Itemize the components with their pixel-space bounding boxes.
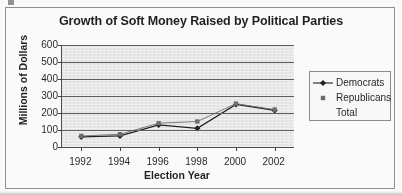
legend-item-democrats: Democrats — [310, 75, 390, 90]
x-axis-tick — [236, 147, 237, 151]
diamond-line-marker-icon — [310, 76, 336, 90]
y-axis-tick-label: 100 — [24, 125, 58, 135]
gridline — [62, 79, 294, 80]
x-axis-tick-label: 2002 — [254, 156, 294, 167]
data-point-republicans — [272, 107, 276, 111]
x-axis-tick — [275, 147, 276, 151]
y-axis-tick-label: 300 — [24, 91, 58, 101]
y-axis-tick-labels: 0100200300400500600 — [22, 45, 58, 147]
series-line-democrats — [81, 105, 274, 137]
y-axis-tick — [58, 113, 62, 114]
gridline — [62, 62, 294, 63]
y-axis-tick-label: 0 — [24, 142, 58, 152]
y-axis-tick — [58, 130, 62, 131]
y-axis-tick — [58, 62, 62, 63]
chart-legend: DemocratsRepublicansTotal — [309, 71, 391, 121]
y-axis-tick — [58, 45, 62, 46]
x-axis-tick-labels: 199219941996199820002002 — [61, 154, 293, 168]
legend-item-republicans: Republicans — [310, 90, 390, 105]
scan-page-edge — [0, 191, 402, 195]
y-axis-tick-label: 600 — [24, 40, 58, 50]
x-axis-title: Election Year — [61, 169, 293, 181]
data-point-republicans — [79, 134, 83, 138]
plot-area — [61, 45, 294, 148]
gridline — [62, 45, 294, 46]
x-axis-tick-label: 2000 — [215, 156, 255, 167]
y-axis-tick-label: 400 — [24, 74, 58, 84]
x-axis-tick-label: 1992 — [60, 156, 100, 167]
x-axis-tick — [81, 147, 82, 151]
data-point-republicans — [156, 121, 160, 125]
x-axis-tick-label: 1994 — [99, 156, 139, 167]
y-axis-tick-label: 200 — [24, 108, 58, 118]
x-axis-tick-label: 1996 — [138, 156, 178, 167]
data-point-republicans — [118, 132, 122, 136]
gridline — [62, 130, 294, 131]
data-point-republicans — [234, 101, 238, 105]
y-axis-tick — [58, 96, 62, 97]
x-axis-tick-label: 1998 — [176, 156, 216, 167]
x-axis-tick — [159, 147, 160, 151]
legend-label: Total — [336, 107, 357, 118]
x-axis-tick — [197, 147, 198, 151]
y-axis-tick — [58, 147, 62, 148]
chart-title: Growth of Soft Money Raised by Political… — [6, 14, 396, 28]
series-line-republicans — [81, 104, 274, 136]
data-point-republicans — [195, 119, 199, 123]
gridline — [62, 96, 294, 97]
legend-label: Democrats — [336, 77, 384, 88]
legend-item-total: Total — [310, 105, 390, 120]
y-axis-tick-label: 500 — [24, 57, 58, 67]
chart-frame: Growth of Soft Money Raised by Political… — [5, 7, 395, 189]
scan-artifact — [8, 0, 14, 5]
gridline — [62, 113, 294, 114]
y-axis-tick — [58, 79, 62, 80]
no-marker-icon — [310, 106, 336, 120]
x-axis-tick — [120, 147, 121, 151]
legend-label: Republicans — [336, 92, 391, 103]
square-marker-icon — [310, 91, 336, 105]
